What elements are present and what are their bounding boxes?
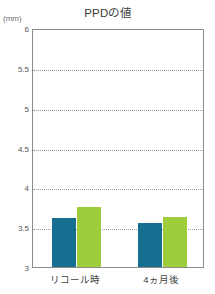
y-axis-unit-label: (mm) (3, 14, 22, 23)
bar-series-1-0 (52, 218, 76, 267)
chart-title: PPDの値 (0, 4, 215, 20)
bar-group (52, 30, 101, 267)
y-tick-label: 4.5 (3, 144, 29, 153)
y-tick-label: 3 (3, 264, 29, 273)
y-tick-label: 3.5 (3, 224, 29, 233)
y-tick-label: 5.5 (3, 64, 29, 73)
bar-series-1-1 (138, 223, 162, 267)
plot-area (32, 29, 204, 268)
ppd-bar-chart: PPDの値 (mm) 65.554.543.53 リコール時4ヵ月後 (0, 0, 215, 294)
x-tick-label: 4ヵ月後 (143, 272, 178, 286)
y-tick-label: 5 (3, 104, 29, 113)
bar-group (138, 30, 187, 267)
y-tick-label: 6 (3, 25, 29, 34)
y-axis-tick-labels: 65.554.543.53 (0, 29, 29, 268)
y-tick-label: 4 (3, 184, 29, 193)
bar-series-2-0 (77, 207, 101, 267)
x-tick-label: リコール時 (50, 272, 100, 286)
bar-series-2-1 (163, 217, 187, 267)
x-axis-tick-labels: リコール時4ヵ月後 (32, 272, 204, 292)
